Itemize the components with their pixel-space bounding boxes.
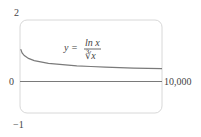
- equation-annotation: y = ln x ∛x: [63, 37, 101, 61]
- y-zero-label: 0: [9, 76, 14, 87]
- y-min-label: −1: [13, 119, 24, 130]
- equation-lhs: y =: [63, 42, 78, 53]
- y-max-label: 2: [14, 7, 19, 18]
- x-max-label: 10,000: [164, 76, 192, 87]
- equation-numerator: ln x: [85, 37, 100, 48]
- chart: 2 0 −1 10,000 y = ln x ∛x: [0, 0, 201, 137]
- equation-denominator: ∛x: [85, 49, 96, 61]
